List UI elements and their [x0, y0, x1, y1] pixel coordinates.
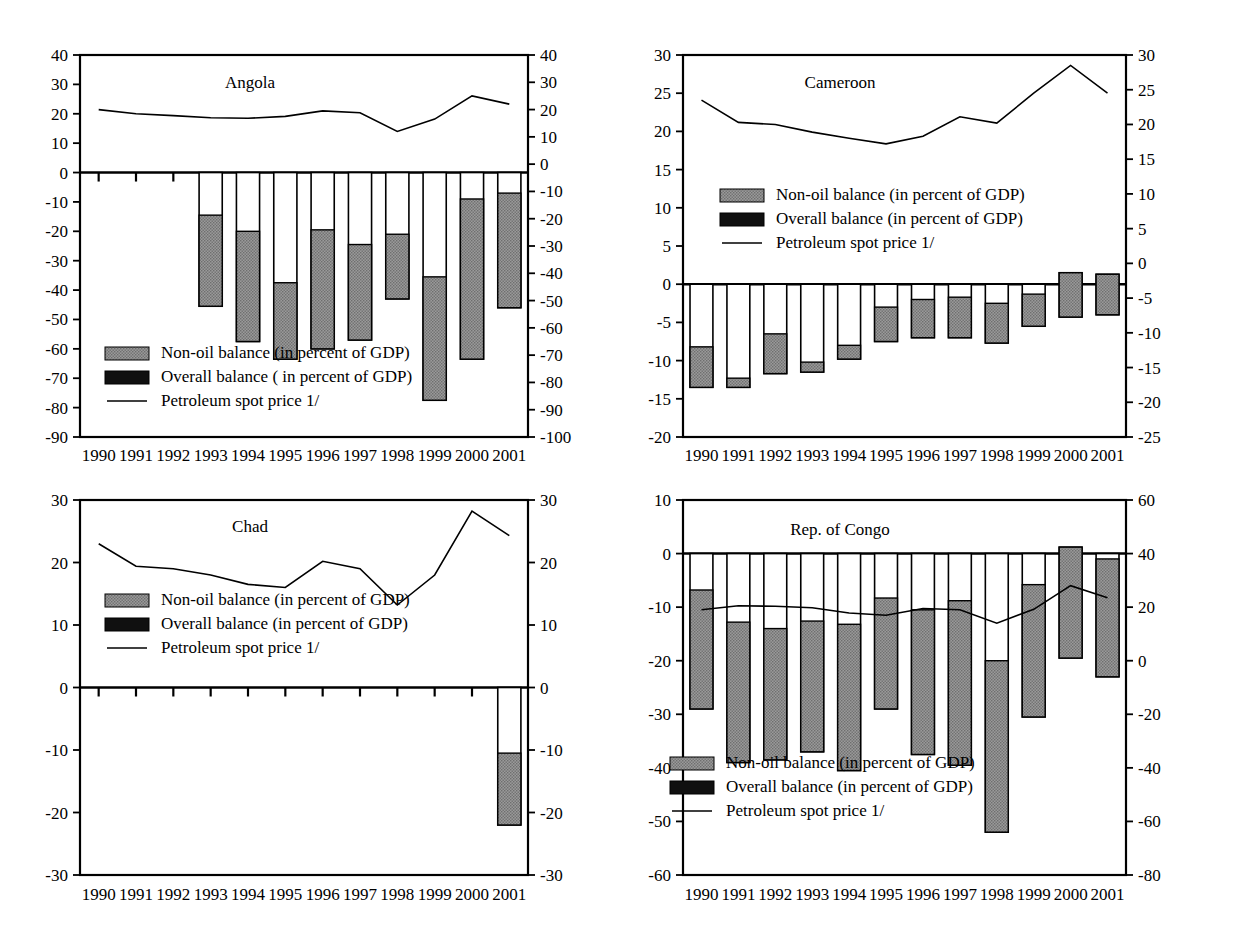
- y-axis-left-tick-label: -10: [45, 741, 68, 760]
- chart-cameroon: 302520151050-5-10-15-20302520151050-5-10…: [610, 0, 1234, 470]
- x-axis-tick-label: 1997: [343, 885, 378, 904]
- bar-non-oil-fill: [948, 601, 971, 765]
- y-axis-left-tick-label: 25: [654, 84, 671, 103]
- y-axis-right-tick-label: -80: [540, 373, 563, 392]
- y-axis-right-tick-label: -100: [540, 428, 571, 447]
- bar-non-oil-fill: [199, 215, 222, 306]
- y-axis-left-tick-label: -20: [45, 222, 68, 241]
- y-axis-right-tick-label: -10: [540, 182, 563, 201]
- chart-congo: 100-10-20-30-40-50-606040200-20-40-60-80…: [610, 460, 1234, 937]
- legend: Non-oil balance (in percent of GDP)Overa…: [670, 753, 975, 820]
- bar-non-oil-fill: [764, 334, 787, 374]
- y-axis-left-tick-label: 5: [663, 237, 672, 256]
- y-axis-left-tick-label: -10: [648, 352, 671, 371]
- bar-non-oil-fill: [912, 299, 935, 337]
- bar-non-oil-fill: [1059, 547, 1082, 658]
- x-axis-tick-label: 1998: [980, 885, 1014, 904]
- x-axis-tick-label: 1993: [795, 885, 829, 904]
- y-axis-left-tick-label: -40: [648, 759, 671, 778]
- figure-page: 403020100-10-20-30-40-50-60-70-80-904030…: [0, 0, 1234, 937]
- x-axis-tick-label: 1994: [231, 885, 266, 904]
- bar-non-oil-fill: [1096, 274, 1119, 314]
- y-axis-right-tick-label: -15: [1138, 359, 1161, 378]
- bar-non-oil-fill: [875, 307, 898, 341]
- y-axis-left-tick-label: 10: [654, 491, 671, 510]
- y-axis-right-tick-label: -60: [1138, 812, 1161, 831]
- chart-angola: 403020100-10-20-30-40-50-60-70-80-904030…: [0, 0, 617, 470]
- y-axis-left-tick-label: -70: [45, 369, 68, 388]
- y-axis-left-tick-label: 40: [51, 46, 68, 65]
- x-axis-tick-label: 1999: [1017, 885, 1051, 904]
- bar-non-oil-fill: [727, 622, 750, 762]
- y-axis-left-tick-label: -60: [45, 340, 68, 359]
- y-axis-right-tick-label: 10: [540, 128, 557, 147]
- x-axis-tick-label: 1995: [268, 885, 302, 904]
- y-axis-left-tick-label: -15: [648, 390, 671, 409]
- legend-label-price: Petroleum spot price 1/: [161, 391, 319, 410]
- panel-cameroon: 302520151050-5-10-15-20302520151050-5-10…: [610, 0, 1234, 470]
- bar-non-oil-fill: [348, 245, 371, 341]
- y-axis-right-tick-label: 0: [540, 679, 549, 698]
- bar-non-oil-fill: [690, 347, 713, 387]
- legend: Non-oil balance (in percent of GDP)Overa…: [105, 343, 412, 410]
- y-axis-right-tick-label: -60: [540, 319, 563, 338]
- legend: Non-oil balance (in percent of GDP)Overa…: [720, 185, 1025, 252]
- bar-outline-non-oil: [801, 284, 824, 372]
- y-axis-right-tick-label: -30: [540, 866, 563, 885]
- y-axis-right-tick-label: -40: [1138, 759, 1161, 778]
- y-axis-left-tick-label: 30: [51, 491, 68, 510]
- y-axis-right-tick-label: -80: [1138, 866, 1161, 885]
- x-axis-tick-label: 1992: [156, 885, 190, 904]
- x-axis-tick-label: 1997: [943, 885, 978, 904]
- y-axis-left-tick-label: 15: [654, 161, 671, 180]
- y-axis-right-tick-label: 30: [540, 491, 557, 510]
- bar-non-oil-fill: [460, 199, 483, 359]
- legend-swatch-overall: [720, 213, 764, 226]
- legend-swatch-non-oil: [720, 189, 764, 202]
- y-axis-left-tick-label: -30: [648, 705, 671, 724]
- petroleum-spot-price-line: [702, 65, 1108, 143]
- legend-swatch-non-oil: [105, 594, 149, 607]
- x-axis-tick-label: 1999: [418, 885, 452, 904]
- legend-label-non-oil: Non-oil balance (in percent of GDP): [161, 343, 410, 362]
- chart-title: Rep. of Congo: [790, 520, 890, 539]
- panel-angola: 403020100-10-20-30-40-50-60-70-80-904030…: [0, 0, 617, 470]
- y-axis-left-tick-label: -40: [45, 281, 68, 300]
- chart-chad: 3020100-10-20-303020100-10-20-3019901991…: [0, 460, 617, 937]
- y-axis-left-tick-label: 10: [51, 616, 68, 635]
- y-axis-left-tick-label: 30: [654, 46, 671, 65]
- x-axis-tick-label: 2000: [1054, 885, 1088, 904]
- legend-label-overall: Overall balance (in percent of GDP): [161, 614, 408, 633]
- bar-non-oil-fill: [498, 753, 521, 825]
- y-axis-right-tick-label: -70: [540, 346, 563, 365]
- bar-non-oil-fill: [690, 590, 713, 709]
- legend-label-price: Petroleum spot price 1/: [776, 233, 934, 252]
- y-axis-left-tick-label: -80: [45, 399, 68, 418]
- legend-swatch-non-oil: [105, 347, 149, 360]
- bar-non-oil-fill: [423, 277, 446, 400]
- y-axis-right-tick-label: 0: [1138, 652, 1147, 671]
- y-axis-right-tick-label: 60: [1138, 491, 1155, 510]
- bar-non-oil-fill: [1022, 294, 1045, 326]
- legend-label-non-oil: Non-oil balance (in percent of GDP): [776, 185, 1025, 204]
- y-axis-right-tick-label: -25: [1138, 428, 1161, 447]
- y-axis-right-tick-label: 20: [1138, 115, 1155, 134]
- y-axis-left-tick-label: 10: [654, 199, 671, 218]
- y-axis-right-tick-label: 10: [1138, 185, 1155, 204]
- legend-label-non-oil: Non-oil balance (in percent of GDP): [726, 753, 975, 772]
- legend-label-overall: Overall balance ( in percent of GDP): [161, 367, 412, 386]
- x-axis-tick-label: 1991: [119, 885, 153, 904]
- x-axis-tick-label: 1994: [832, 885, 867, 904]
- x-axis-tick-label: 2001: [1091, 885, 1125, 904]
- y-axis-left-tick-label: -90: [45, 428, 68, 447]
- y-axis-right-tick-label: -5: [1138, 289, 1152, 308]
- bar-non-oil-fill: [1096, 559, 1119, 677]
- legend-label-price: Petroleum spot price 1/: [161, 638, 319, 657]
- bar-non-oil-fill: [498, 193, 521, 308]
- y-axis-left-tick-label: -10: [45, 193, 68, 212]
- y-axis-right-tick-label: -10: [540, 741, 563, 760]
- y-axis-right-tick-label: 20: [540, 554, 557, 573]
- petroleum-spot-price-line: [702, 586, 1108, 624]
- panel-chad: 3020100-10-20-303020100-10-20-3019901991…: [0, 460, 617, 937]
- legend-label-overall: Overall balance (in percent of GDP): [776, 209, 1023, 228]
